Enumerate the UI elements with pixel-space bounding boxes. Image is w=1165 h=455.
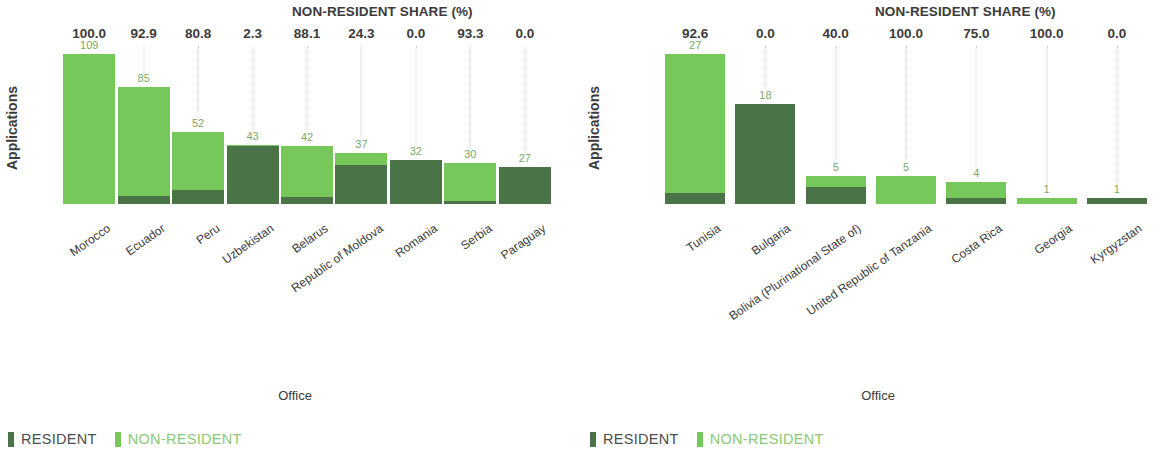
legend-swatch-icon <box>697 432 703 447</box>
legend-label: NON-RESIDENT <box>710 431 824 447</box>
plot-area: 109Morocco85Ecuador52Peru43Uzbekistan42B… <box>0 0 582 455</box>
bar-segment-resident[interactable] <box>499 167 551 204</box>
legend-label: RESIDENT <box>603 431 679 447</box>
bar-total-label: 18 <box>759 89 771 101</box>
bar[interactable] <box>227 145 279 204</box>
bar-segment-non-resident[interactable] <box>876 176 936 204</box>
bar-segment-resident[interactable] <box>118 196 170 204</box>
bar-segment-non-resident[interactable] <box>63 54 115 204</box>
bar-segment-non-resident[interactable] <box>1017 198 1077 204</box>
bar-total-label: 37 <box>355 138 367 150</box>
bar-segment-resident[interactable] <box>335 165 387 204</box>
legend-swatch-icon <box>590 432 596 447</box>
gridline <box>765 46 766 90</box>
bar-segment-non-resident[interactable] <box>335 153 387 165</box>
x-axis-category-label: Serbia <box>458 221 494 252</box>
x-axis-category-label: United Republic of Tanzania <box>804 221 934 318</box>
bar-total-label: 4 <box>973 167 979 179</box>
bar-total-label: 85 <box>138 72 150 84</box>
bar[interactable] <box>390 160 442 204</box>
x-axis-title: Office <box>861 388 895 403</box>
bar-total-label: 43 <box>246 130 258 142</box>
gridline <box>198 46 199 118</box>
bar-segment-non-resident[interactable] <box>946 182 1006 198</box>
gridline <box>361 46 362 139</box>
bar[interactable] <box>735 104 795 204</box>
bar-segment-resident[interactable] <box>1087 198 1147 204</box>
x-axis-category-label: Ecuador <box>123 221 168 258</box>
bar-segment-resident[interactable] <box>946 198 1006 204</box>
bar-total-label: 42 <box>301 131 313 143</box>
legend-swatch-icon <box>115 432 121 447</box>
gridline <box>415 46 416 146</box>
bar-segment-resident[interactable] <box>172 190 224 204</box>
bar[interactable] <box>335 153 387 204</box>
bar[interactable] <box>946 182 1006 204</box>
bar-segment-non-resident[interactable] <box>806 176 866 187</box>
bar-segment-resident[interactable] <box>735 104 795 204</box>
x-axis-category-label: Kyrgyzstan <box>1088 221 1145 267</box>
bar-total-label: 5 <box>903 161 909 173</box>
gridline <box>976 46 977 168</box>
chart-panel-left: NON-RESIDENT SHARE (%) 100.092.980.82.38… <box>0 0 582 455</box>
bar-total-label: 27 <box>519 152 531 164</box>
bar[interactable] <box>806 176 866 204</box>
bar-segment-resident[interactable] <box>390 160 442 204</box>
gridline <box>307 46 308 132</box>
chart-panel-right: NON-RESIDENT SHARE (%) 92.60.040.0100.07… <box>582 0 1164 455</box>
legend-label: RESIDENT <box>21 431 97 447</box>
bar[interactable] <box>1087 198 1147 204</box>
bar-segment-resident[interactable] <box>227 146 279 204</box>
chart-page: NON-RESIDENT SHARE (%) 100.092.980.82.38… <box>0 0 1165 455</box>
gridline <box>835 46 836 162</box>
x-axis-category-label: Bulgaria <box>749 221 793 258</box>
x-axis-category-label: Morocco <box>68 221 114 259</box>
x-axis-category-label: Romania <box>393 221 440 260</box>
bar-segment-non-resident[interactable] <box>444 163 496 201</box>
x-axis-category-label: Tunisia <box>684 221 723 254</box>
bar[interactable] <box>281 146 333 204</box>
x-axis-category-label: Georgia <box>1032 221 1075 257</box>
legend-item-resident[interactable]: RESIDENT <box>8 431 97 447</box>
bar-segment-resident[interactable] <box>444 201 496 204</box>
legend-item-non-resident[interactable]: NON-RESIDENT <box>115 431 242 447</box>
bar[interactable] <box>444 163 496 204</box>
bar[interactable] <box>1017 198 1077 204</box>
gridline <box>524 46 525 153</box>
bar-segment-non-resident[interactable] <box>281 146 333 197</box>
x-axis-category-label: Republic of Moldova <box>288 221 385 295</box>
bar-segment-non-resident[interactable] <box>172 132 224 190</box>
legend: RESIDENTNON-RESIDENT <box>590 431 824 447</box>
bar-total-label: 109 <box>80 39 98 51</box>
bar[interactable] <box>63 54 115 204</box>
bar[interactable] <box>876 176 936 204</box>
bar-total-label: 1 <box>1044 183 1050 195</box>
bar-segment-resident[interactable] <box>665 193 725 204</box>
legend-item-non-resident[interactable]: NON-RESIDENT <box>697 431 824 447</box>
bar[interactable] <box>665 54 725 204</box>
bar[interactable] <box>118 87 170 204</box>
bar[interactable] <box>172 132 224 204</box>
bar-total-label: 30 <box>464 148 476 160</box>
bar-segment-resident[interactable] <box>806 187 866 204</box>
legend-item-resident[interactable]: RESIDENT <box>590 431 679 447</box>
bar-segment-non-resident[interactable] <box>118 87 170 196</box>
bar-total-label: 27 <box>689 39 701 51</box>
legend-label: NON-RESIDENT <box>128 431 242 447</box>
bar[interactable] <box>499 167 551 204</box>
x-axis-category-label: Bolivia (Plurinational State of) <box>727 221 864 323</box>
gridline <box>906 46 907 162</box>
gridline <box>252 46 253 131</box>
bar-segment-non-resident[interactable] <box>665 54 725 193</box>
x-axis-category-label: Belarus <box>290 221 331 256</box>
gridline <box>470 46 471 149</box>
plot-area: 27Tunisia18Bulgaria5Bolivia (Plurination… <box>582 0 1164 455</box>
gridline <box>1116 46 1117 184</box>
bar-total-label: 52 <box>192 117 204 129</box>
legend: RESIDENTNON-RESIDENT <box>8 431 242 447</box>
bar-total-label: 5 <box>833 161 839 173</box>
x-axis-category-label: Uzbekistan <box>220 221 277 267</box>
bar-total-label: 1 <box>1114 183 1120 195</box>
x-axis-category-label: Costa Rica <box>948 221 1004 266</box>
bar-segment-resident[interactable] <box>281 197 333 204</box>
